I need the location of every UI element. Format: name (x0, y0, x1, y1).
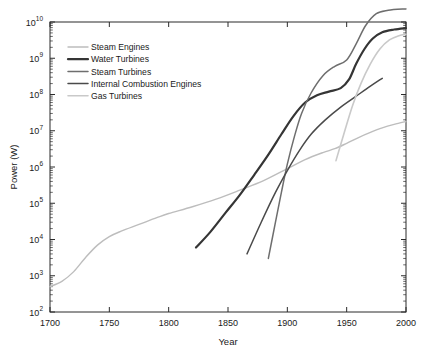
legend-label: Water Turbines (91, 54, 149, 64)
legend-label: Steam Turbines (91, 67, 151, 77)
y-tick-label: 105 (29, 196, 43, 209)
power-vs-year-line-chart: 1021031041051061071081091010 17001750180… (0, 0, 433, 352)
series-line (196, 28, 406, 247)
x-tick-label: 1750 (99, 318, 119, 328)
x-tick-label: 1850 (218, 318, 238, 328)
series-line (247, 78, 382, 254)
y-tick-label: 108 (29, 88, 43, 101)
legend-label: Gas Turbines (91, 91, 142, 101)
y-tick-label: 1010 (26, 15, 44, 28)
y-tick-label: 107 (29, 124, 43, 137)
plot-frame-rect (50, 22, 406, 312)
x-tick-label: 1900 (277, 318, 297, 328)
y-tick-label: 104 (29, 233, 43, 246)
plot-frame (50, 22, 406, 312)
x-tick-label: 1800 (159, 318, 179, 328)
series-line (268, 9, 406, 259)
chart-container: 1021031041051061071081091010 17001750180… (0, 0, 433, 352)
y-tick-label: 109 (29, 51, 43, 64)
x-tick-label: 2000 (396, 318, 416, 328)
chart-legend: Steam EnginesWater TurbinesSteam Turbine… (68, 42, 201, 101)
y-tick-label: 103 (29, 269, 43, 282)
y-axis-ticks (50, 22, 406, 312)
y-tick-label: 106 (29, 160, 43, 173)
series-line (336, 34, 406, 160)
legend-label: Internal Combustion Engines (91, 79, 201, 89)
x-axis-title: Year (218, 336, 237, 347)
y-axis-title: Power (W) (8, 145, 19, 190)
x-tick-label: 1700 (40, 318, 60, 328)
x-axis-ticks (50, 22, 406, 312)
y-axis-tick-labels: 1021031041051061071081091010 (26, 15, 44, 318)
y-tick-label: 102 (29, 305, 43, 318)
x-tick-label: 1950 (337, 318, 357, 328)
legend-label: Steam Engines (91, 42, 149, 52)
series-line (50, 122, 406, 287)
x-axis-tick-labels: 1700175018001850190019502000 (40, 318, 416, 328)
